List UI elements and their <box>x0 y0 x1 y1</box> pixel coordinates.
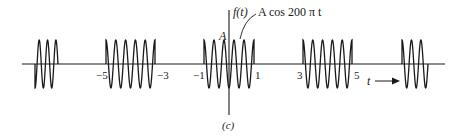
tick-label-5: 5 <box>354 70 360 81</box>
carrier-label: A cos 200 π t <box>258 6 321 18</box>
tick-label-1: 1 <box>255 70 261 81</box>
time-axis-label: t <box>367 75 370 87</box>
time-arrow-head <box>392 78 400 85</box>
tick-label-3: 3 <box>297 70 303 81</box>
tick-label-neg5: −5 <box>96 70 108 81</box>
tick-label-neg1: −1 <box>193 70 205 81</box>
panel-label: (c) <box>222 120 234 131</box>
tick-label-neg3: −3 <box>157 70 169 81</box>
pulse-modulated-carrier-diagram <box>0 0 466 137</box>
amplitude-label: A <box>219 30 226 42</box>
function-label: f(t) <box>233 6 248 18</box>
